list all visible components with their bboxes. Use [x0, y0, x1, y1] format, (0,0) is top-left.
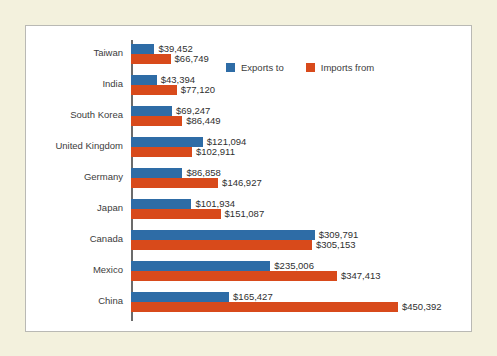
bar-value-label: $450,392: [402, 301, 442, 312]
category-label: Mexico: [25, 264, 131, 275]
bar-group: South Korea$69,247$86,449: [26, 106, 471, 126]
bar-group: Canada$309,791$305,153: [26, 230, 471, 250]
bar-value-label: $86,858: [186, 167, 220, 178]
bar-value-label: $66,749: [175, 53, 209, 64]
bar-group: Taiwan$39,452$66,749: [26, 44, 471, 64]
bar-exports: $309,791: [131, 230, 315, 240]
bar-value-label: $77,120: [181, 84, 215, 95]
bar-imports: $86,449: [131, 116, 182, 126]
bar-value-label: $305,153: [316, 239, 356, 250]
bar-group: Mexico$235,006$347,413: [26, 261, 471, 281]
category-label: Canada: [25, 233, 131, 244]
legend-item: Exports to: [226, 62, 284, 73]
page: Taiwan$39,452$66,749India$43,394$77,120S…: [0, 0, 497, 356]
category-label: India: [25, 78, 131, 89]
bar-chart-plot: Taiwan$39,452$66,749India$43,394$77,120S…: [26, 26, 471, 331]
chart-legend: Exports toImports from: [226, 62, 374, 73]
bar-value-label: $146,927: [222, 177, 262, 188]
category-label: Japan: [25, 202, 131, 213]
bar-exports: $86,858: [131, 168, 182, 178]
bar-exports: $235,006: [131, 261, 270, 271]
bar-group: China$165,427$450,392: [26, 292, 471, 312]
bar-imports: $305,153: [131, 240, 312, 250]
bar-imports: $77,120: [131, 85, 177, 95]
legend-label: Imports from: [321, 62, 374, 73]
bar-value-label: $165,427: [233, 291, 273, 302]
bar-imports: $66,749: [131, 54, 171, 64]
bar-imports: $151,087: [131, 209, 221, 219]
bar-imports: $347,413: [131, 271, 337, 281]
bar-exports: $43,394: [131, 75, 157, 85]
category-label: Taiwan: [25, 47, 131, 58]
legend-swatch-icon: [226, 63, 235, 72]
bar-imports: $102,911: [131, 147, 192, 157]
bar-exports: $101,934: [131, 199, 191, 209]
bar-value-label: $235,006: [274, 260, 314, 271]
bar-group: United Kingdom$121,094$102,911: [26, 137, 471, 157]
legend-label: Exports to: [241, 62, 284, 73]
category-label: China: [25, 295, 131, 306]
bar-value-label: $102,911: [196, 146, 235, 157]
category-label: United Kingdom: [25, 140, 131, 151]
legend-swatch-icon: [306, 63, 315, 72]
bar-imports: $450,392: [131, 302, 398, 312]
bar-exports: $69,247: [131, 106, 172, 116]
legend-item: Imports from: [306, 62, 374, 73]
bar-value-label: $86,449: [186, 115, 220, 126]
bar-value-label: $151,087: [225, 208, 265, 219]
bar-imports: $146,927: [131, 178, 218, 188]
bar-exports: $39,452: [131, 44, 154, 54]
bar-group: Japan$101,934$151,087: [26, 199, 471, 219]
bar-exports: $165,427: [131, 292, 229, 302]
bar-group: India$43,394$77,120: [26, 75, 471, 95]
category-label: South Korea: [25, 109, 131, 120]
bar-group: Germany$86,858$146,927: [26, 168, 471, 188]
bar-value-label: $347,413: [341, 270, 381, 281]
bar-exports: $121,094: [131, 137, 203, 147]
category-label: Germany: [25, 171, 131, 182]
chart-panel: Taiwan$39,452$66,749India$43,394$77,120S…: [25, 25, 472, 332]
